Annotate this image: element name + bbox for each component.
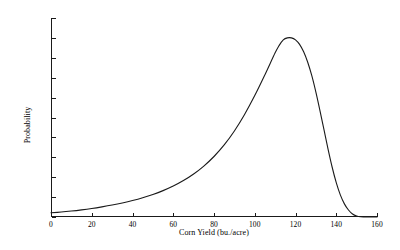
chart-figure: 0.0000.0020.0040.0060.0080.0100.0120.014… [0,0,400,250]
x-axis-tick [377,213,378,217]
y-axis-tick [52,217,56,218]
x-axis-tick-label: 140 [330,221,342,229]
x-axis-tick-label: 40 [129,221,137,229]
curve-path [51,38,377,217]
x-axis-tick-label: 160 [371,221,383,229]
plot-area: 0.0000.0020.0040.0060.0080.0100.0120.014… [51,18,377,217]
y-axis-title: Probability [24,107,32,144]
x-axis-tick-label: 100 [249,221,261,229]
x-axis-tick-label: 120 [290,221,302,229]
probability-density-curve [51,18,377,217]
x-axis-title: Corn Yield (bu./acre) [51,229,377,237]
x-axis-tick-label: 0 [49,221,53,229]
x-axis-tick-label: 60 [169,221,177,229]
x-axis-tick-label: 20 [88,221,96,229]
